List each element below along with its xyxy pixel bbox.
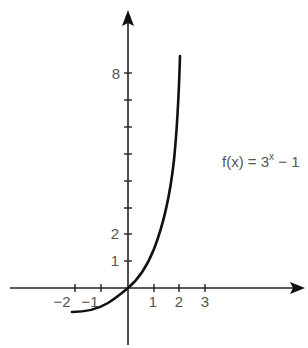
function-label: f(x) = 3x − 1 bbox=[222, 151, 300, 170]
x-tick-label-3: 3 bbox=[201, 293, 209, 310]
function-label-base: f(x) = 3 bbox=[222, 153, 269, 170]
x-tick-label-1: 1 bbox=[149, 293, 157, 310]
x-tick-label-2: 2 bbox=[175, 293, 183, 310]
y-tick-label-8: 8 bbox=[112, 65, 120, 82]
function-graph: −2 −1 1 2 3 1 2 8 f(x) = 3x − 1 bbox=[0, 0, 308, 348]
y-tick-label-1: 1 bbox=[111, 252, 119, 269]
function-label-tail: − 1 bbox=[274, 153, 299, 170]
x-tick-label-neg2: −2 bbox=[53, 293, 70, 310]
function-curve bbox=[72, 56, 180, 312]
y-tick-label-2: 2 bbox=[111, 225, 119, 242]
